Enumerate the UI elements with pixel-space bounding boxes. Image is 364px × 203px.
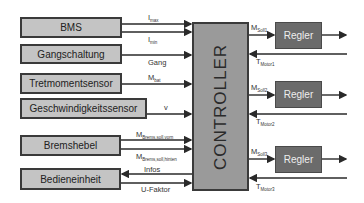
gangschaltung-box: Gangschaltung: [20, 44, 122, 64]
signal-imin: Imin: [148, 36, 157, 46]
tretmomentsensor-label: Tretmomentsensor: [29, 78, 113, 89]
signal-ufaktor: U-Faktor: [141, 186, 170, 194]
tretmomentsensor-box: Tretmomentsensor: [20, 73, 122, 94]
signal-imax: Imax: [148, 14, 159, 24]
bremshebel-box: Bremshebel: [20, 135, 121, 156]
signal-tmotor3: TMotor3: [256, 183, 275, 193]
geschwindigkeitssensor-label: Geschwindigkeitssensor: [30, 103, 138, 114]
regler-1-label: Regler: [284, 30, 313, 41]
regler-3-label: Regler: [284, 154, 313, 165]
regler-2-box: Regler: [275, 81, 322, 108]
signal-mbrems-hinten: MBrems,soll,hinten: [136, 153, 177, 163]
bedieneinheit-box: Bedieneinheit: [20, 168, 121, 190]
signal-msoll2: MSoll2: [251, 84, 267, 94]
bms-label: BMS: [60, 22, 82, 33]
bremshebel-label: Bremshebel: [44, 140, 97, 151]
bms-box: BMS: [20, 17, 122, 38]
gangschaltung-label: Gangschaltung: [37, 49, 104, 60]
signal-mbrems-vorn: MBrems,soll,vorn: [136, 131, 173, 141]
signal-gang: Gang: [148, 59, 166, 67]
signal-v: v: [164, 104, 168, 112]
regler-1-box: Regler: [275, 22, 322, 49]
signal-tmotor1: TMotor1: [256, 58, 275, 68]
regler-3-box: Regler: [275, 146, 322, 173]
controller-label: CONTROLLER: [211, 43, 231, 169]
signal-infos: Infos: [144, 166, 160, 174]
signal-msoll1: MSoll1: [251, 24, 267, 34]
signal-mbat: Mbat: [148, 74, 161, 84]
geschwindigkeitssensor-box: Geschwindigkeitssensor: [20, 98, 147, 119]
bedieneinheit-label: Bedieneinheit: [40, 174, 101, 185]
controller-box: CONTROLLER: [192, 22, 249, 191]
signal-tmotor2: TMotor2: [256, 118, 275, 128]
block-diagram: BMS Gangschaltung Tretmomentsensor Gesch…: [0, 0, 364, 203]
regler-2-label: Regler: [284, 89, 313, 100]
signal-msoll3: MSoll3: [251, 148, 267, 158]
